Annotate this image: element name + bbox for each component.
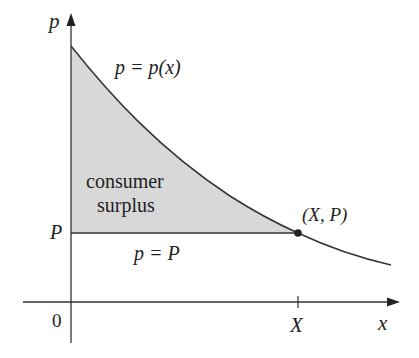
origin-label: 0 bbox=[52, 310, 62, 331]
x-axis-arrow-icon bbox=[387, 298, 400, 307]
y-axis-label: p bbox=[47, 9, 60, 33]
x-axis-label: x bbox=[377, 311, 388, 335]
consumer-surplus-diagram: p x 0 p = p(x) p = P consumer surplus (X… bbox=[0, 0, 419, 358]
price-line-label: p = P bbox=[132, 242, 180, 265]
region-label-line1: consumer bbox=[86, 170, 164, 192]
x-tick-label: X bbox=[289, 313, 304, 337]
y-axis-arrow-icon bbox=[67, 13, 76, 26]
y-tick-label: P bbox=[49, 221, 62, 243]
region-label-line2: surplus bbox=[97, 194, 155, 217]
curve-label: p = p(x) bbox=[113, 56, 181, 79]
equilibrium-point bbox=[294, 229, 302, 237]
point-label: (X, P) bbox=[302, 204, 347, 226]
